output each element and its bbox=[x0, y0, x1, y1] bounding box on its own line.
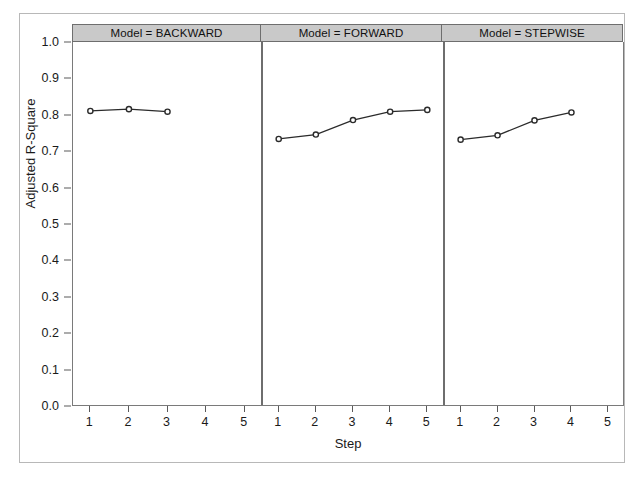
x-tick-label: 1 bbox=[274, 415, 281, 429]
panel-header-forward-label: Model = FORWARD bbox=[299, 27, 404, 39]
x-tick-mark bbox=[460, 406, 461, 412]
y-tick-label: 0.6 bbox=[42, 181, 59, 195]
data-point-marker bbox=[276, 136, 281, 141]
y-axis-title: Adjusted R-Square bbox=[23, 54, 38, 254]
data-point-marker bbox=[165, 109, 170, 114]
panel-divider-2 bbox=[443, 42, 445, 405]
x-tick-label: 4 bbox=[202, 415, 209, 429]
panel-header-strip: Model = BACKWARD Model = FORWARD Model =… bbox=[72, 24, 624, 42]
panel-backward bbox=[73, 42, 262, 405]
x-tick-mark bbox=[607, 406, 608, 412]
data-point-marker bbox=[126, 107, 131, 112]
data-point-marker bbox=[425, 107, 430, 112]
y-tick-label: 0.2 bbox=[42, 326, 59, 340]
y-tick-mark bbox=[64, 369, 71, 370]
x-tick-mark bbox=[352, 406, 353, 412]
series-backward bbox=[73, 42, 262, 405]
x-tick-label: 2 bbox=[124, 415, 131, 429]
x-tick-mark bbox=[389, 406, 390, 412]
x-tick-label: 1 bbox=[456, 415, 463, 429]
x-tick-mark bbox=[205, 406, 206, 412]
y-tick-mark bbox=[64, 187, 71, 188]
x-tick-label: 3 bbox=[163, 415, 170, 429]
data-point-marker bbox=[88, 108, 93, 113]
y-tick-label: 0.7 bbox=[42, 144, 59, 158]
x-tick-mark bbox=[167, 406, 168, 412]
y-tick-mark bbox=[64, 224, 71, 225]
x-tick-mark bbox=[278, 406, 279, 412]
y-tick-mark bbox=[64, 151, 71, 152]
data-point-marker bbox=[495, 133, 500, 138]
x-tick-label: 5 bbox=[604, 415, 611, 429]
y-tick-mark bbox=[64, 114, 71, 115]
panel-header-backward: Model = BACKWARD bbox=[72, 24, 261, 42]
panel-divider-1 bbox=[261, 42, 263, 405]
x-tick-mark bbox=[128, 406, 129, 412]
x-tick-label: 3 bbox=[530, 415, 537, 429]
y-tick-label: 0.4 bbox=[42, 253, 59, 267]
x-tick-label: 2 bbox=[493, 415, 500, 429]
x-tick-label: 2 bbox=[311, 415, 318, 429]
x-tick-label: 4 bbox=[386, 415, 393, 429]
x-tick-label: 5 bbox=[240, 415, 247, 429]
x-tick-mark bbox=[570, 406, 571, 412]
y-tick-label: 0.9 bbox=[42, 71, 59, 85]
x-tick-label: 3 bbox=[349, 415, 356, 429]
x-tick-mark bbox=[497, 406, 498, 412]
data-point-marker bbox=[350, 117, 355, 122]
panel-header-stepwise-label: Model = STEPWISE bbox=[479, 27, 584, 39]
series-forward bbox=[262, 42, 444, 405]
x-tick-mark bbox=[534, 406, 535, 412]
panel-header-stepwise: Model = STEPWISE bbox=[441, 24, 623, 42]
series-stepwise bbox=[444, 42, 625, 405]
y-tick-mark bbox=[64, 296, 71, 297]
series-line bbox=[461, 112, 572, 139]
y-tick-mark bbox=[64, 406, 71, 407]
y-tick-mark bbox=[64, 260, 71, 261]
data-point-marker bbox=[458, 137, 463, 142]
plot-area bbox=[72, 42, 624, 406]
x-tick-label: 1 bbox=[86, 415, 93, 429]
x-tick-mark bbox=[315, 406, 316, 412]
x-tick-mark bbox=[89, 406, 90, 412]
x-tick-label: 5 bbox=[423, 415, 430, 429]
y-tick-label: 0.8 bbox=[42, 108, 59, 122]
x-tick-mark bbox=[426, 406, 427, 412]
y-tick-label: 0.3 bbox=[42, 290, 59, 304]
panel-header-backward-label: Model = BACKWARD bbox=[110, 27, 222, 39]
panel-stepwise bbox=[444, 42, 625, 405]
x-tick-mark bbox=[244, 406, 245, 412]
y-tick-label: 0.0 bbox=[42, 399, 59, 413]
y-tick-label: 0.1 bbox=[42, 363, 59, 377]
data-point-marker bbox=[569, 110, 574, 115]
panel-header-forward: Model = FORWARD bbox=[260, 24, 442, 42]
y-tick-mark bbox=[64, 78, 71, 79]
series-line bbox=[279, 110, 428, 139]
x-axis-title: Step bbox=[72, 436, 624, 451]
chart-screenshot: Model = BACKWARD Model = FORWARD Model =… bbox=[0, 0, 643, 478]
data-point-marker bbox=[388, 109, 393, 114]
y-tick-label: 0.5 bbox=[42, 217, 59, 231]
data-point-marker bbox=[313, 132, 318, 137]
y-tick-mark bbox=[64, 42, 71, 43]
data-point-marker bbox=[532, 118, 537, 123]
panel-forward bbox=[262, 42, 444, 405]
x-tick-label: 4 bbox=[567, 415, 574, 429]
y-tick-label: 1.0 bbox=[42, 35, 59, 49]
y-tick-mark bbox=[64, 333, 71, 334]
